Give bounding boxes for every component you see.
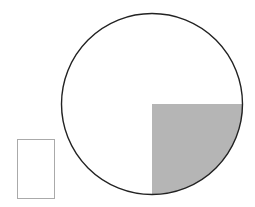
- side-rectangle: [18, 140, 55, 199]
- diagram-canvas: [0, 0, 255, 207]
- shaded-quarter-sector: [152, 104, 243, 195]
